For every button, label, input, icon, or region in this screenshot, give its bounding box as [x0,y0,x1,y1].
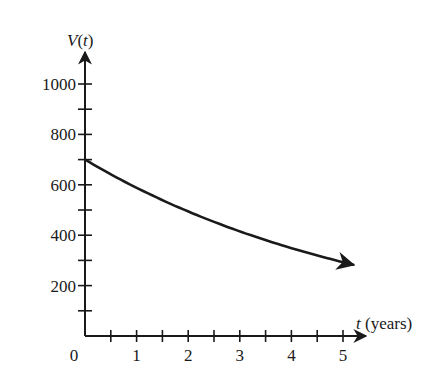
x-tick-label: 2 [184,346,193,365]
axes [85,52,366,336]
x-tick-label: 3 [236,346,245,365]
x-axis-unit: (years) [365,314,412,333]
line-chart: 012345 2004006008001000 V(t) t (years) [0,0,448,386]
y-axis-title: V(t) [67,31,93,50]
x-axis-title: t (years) [356,314,412,333]
x-tick-label: 5 [339,346,348,365]
y-tick-label: 600 [51,176,77,195]
series-line [85,160,353,265]
x-axis-tick-labels: 012345 [70,346,348,365]
x-tick-label: 4 [287,346,296,365]
chart: 012345 2004006008001000 V(t) t (years) [0,0,448,386]
x-tick-label: 1 [132,346,141,365]
y-tick-label: 400 [51,226,77,245]
y-axis-tick-labels: 2004006008001000 [42,75,76,296]
y-tick-label: 200 [51,277,77,296]
x-tick-label: 0 [70,346,79,365]
y-tick-label: 1000 [42,75,76,94]
y-tick-label: 800 [51,125,77,144]
data-series [85,160,353,265]
